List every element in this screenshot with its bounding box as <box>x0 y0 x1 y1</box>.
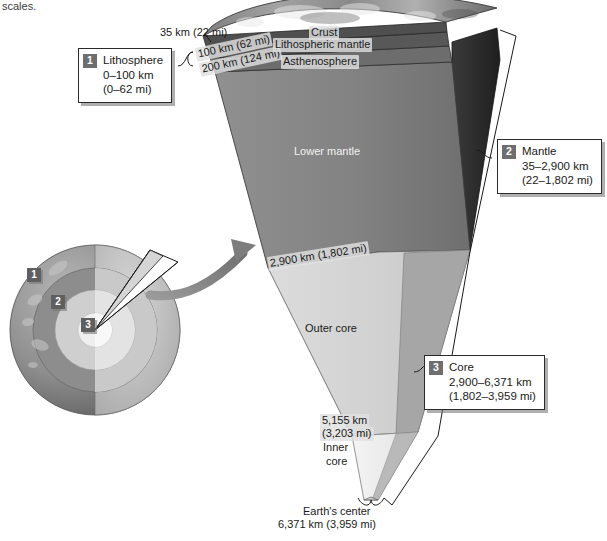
globe-badge-lithosphere: 1 <box>27 268 41 282</box>
annotation-crust-depth: 35 km (22 mi) <box>160 26 227 40</box>
label-outer-core: Outer core <box>305 322 357 336</box>
callout-title-3: Core <box>449 360 536 375</box>
callout-badge-2: 2 <box>502 145 516 159</box>
globe-badge-core: 3 <box>81 318 95 332</box>
leader-lithosphere-a <box>178 52 193 66</box>
callout-mantle: 2 Mantle 35–2,900 km (22–1,802 mi) <box>497 139 602 194</box>
label-lower-mantle: Lower mantle <box>294 145 360 159</box>
callout-lithosphere: 1 Lithosphere 0–100 km (0–62 mi) <box>78 48 172 103</box>
label-earth-center: Earth's center <box>303 505 371 519</box>
label-inner-core-line2: core <box>326 455 347 469</box>
annotation-inner-core-top-km: 5,155 km <box>320 414 369 428</box>
callout-badge-3: 3 <box>429 361 443 375</box>
caption-fragment: scales. <box>2 0 36 14</box>
callout-title-2: Mantle <box>522 144 593 159</box>
callout-range-mi-2: (22–1,802 mi) <box>522 173 593 188</box>
callout-badge-1: 1 <box>83 54 97 68</box>
callout-range-km-3: 2,900–6,371 km <box>449 375 536 390</box>
leader-lithosphere-b <box>188 52 193 66</box>
layer-lower-mantle <box>215 62 470 268</box>
callout-range-km-1: 0–100 km <box>103 68 163 83</box>
callout-core: 3 Core 2,900–6,371 km (1,802–3,959 mi) <box>424 355 545 410</box>
callout-text-1: Lithosphere 0–100 km (0–62 mi) <box>103 53 163 97</box>
callout-range-km-2: 35–2,900 km <box>522 159 593 174</box>
globe-badge-mantle: 2 <box>51 295 65 309</box>
label-asthenosphere: Asthenosphere <box>281 55 359 69</box>
label-lithospheric-mantle: Lithospheric mantle <box>273 38 372 52</box>
callout-title-1: Lithosphere <box>103 53 163 68</box>
annotation-inner-core-top-mi: (3,203 mi) <box>320 427 374 441</box>
earth-interior-diagram: scales. 35 km (22 mi) 100 km (62 mi) 200… <box>0 0 607 541</box>
callout-text-2: Mantle 35–2,900 km (22–1,802 mi) <box>522 144 593 188</box>
callout-range-mi-1: (0–62 mi) <box>103 82 163 97</box>
label-inner-core-line1: Inner <box>323 441 348 455</box>
annotation-earth-radius: 6,371 km (3,959 mi) <box>278 518 376 532</box>
callout-range-mi-3: (1,802–3,959 mi) <box>449 389 536 404</box>
callout-text-3: Core 2,900–6,371 km (1,802–3,959 mi) <box>449 360 536 404</box>
